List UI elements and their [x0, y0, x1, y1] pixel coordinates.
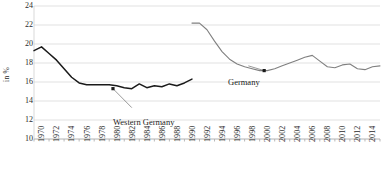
- x-axis-tick-label: 1970: [37, 126, 46, 142]
- x-axis-tick-label: 1996: [233, 126, 242, 142]
- x-axis-tick-label: 1976: [83, 126, 92, 142]
- series-label-western-germany: Western Germany: [113, 117, 174, 127]
- x-axis-tick-label: 2002: [278, 126, 287, 142]
- x-axis-tick-label: 1992: [203, 126, 212, 142]
- x-axis-tick-label: 1998: [248, 126, 257, 142]
- x-axis-tick-label: 1982: [128, 126, 137, 142]
- x-axis-tick-label: 1994: [218, 126, 227, 142]
- x-axis-tick-label: 1978: [98, 126, 107, 142]
- x-axis-tick-label: 2014: [368, 126, 377, 142]
- x-axis-tick-label: 1988: [173, 126, 182, 142]
- x-axis-tick-label: 2008: [323, 126, 332, 142]
- x-axis-tick-label: 1984: [143, 126, 152, 142]
- chart-container: in % 2422201816141210 197019721974197619…: [0, 0, 382, 195]
- x-axis-tick-label: 1972: [52, 126, 61, 142]
- x-axis-tick-label: 1986: [158, 126, 167, 142]
- x-axis-ticks: 1970197219741976197819801982198419861988…: [0, 0, 382, 195]
- x-axis-tick-label: 1974: [67, 126, 76, 142]
- x-axis-tick-label: 2004: [293, 126, 302, 142]
- series-label-germany: Germany: [228, 77, 260, 87]
- x-axis-tick-label: 1990: [188, 126, 197, 142]
- x-axis-tick-label: 2012: [353, 126, 362, 142]
- x-axis-tick-label: 2010: [338, 126, 347, 142]
- x-axis-tick-label: 2000: [263, 126, 272, 142]
- x-axis-tick-label: 1980: [113, 126, 122, 142]
- x-axis-tick-label: 2006: [308, 126, 317, 142]
